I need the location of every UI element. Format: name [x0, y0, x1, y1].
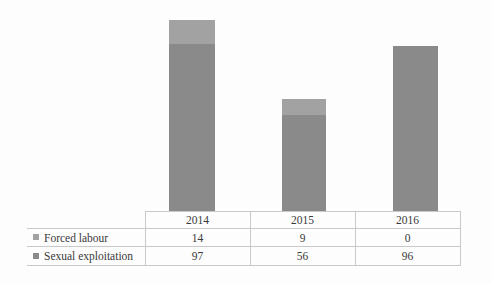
- segment-sexual-exploitation-2016[interactable]: [393, 46, 438, 212]
- column-2015[interactable]: [282, 99, 326, 212]
- table-corner-cell: [27, 212, 145, 229]
- table-row: Forced labour 14 9 0: [27, 229, 460, 247]
- chart-data-table: 2014 2015 2016 Forced labour 14 9 0 Sexu…: [27, 211, 461, 266]
- legend-label-sexual-exploitation: Sexual exploitation: [44, 251, 133, 263]
- plot-area: [0, 0, 492, 212]
- column-2014[interactable]: [169, 20, 215, 212]
- legend-item-sexual-exploitation[interactable]: Sexual exploitation: [27, 247, 145, 265]
- legend-swatch-icon: [33, 234, 39, 240]
- table-row: Sexual exploitation 97 56 96: [27, 247, 460, 265]
- cell-sexual-exploitation-2014: 97: [145, 247, 250, 265]
- cell-sexual-exploitation-2015: 56: [250, 247, 355, 265]
- cell-sexual-exploitation-2016: 96: [355, 247, 460, 265]
- column-2016[interactable]: [393, 46, 438, 212]
- segment-sexual-exploitation-2015[interactable]: [282, 115, 326, 212]
- legend-label-forced-labour: Forced labour: [44, 232, 108, 244]
- cell-forced-labour-2016: 0: [355, 229, 460, 247]
- cell-forced-labour-2014: 14: [145, 229, 250, 247]
- cell-forced-labour-2015: 9: [250, 229, 355, 247]
- table-header-row: 2014 2015 2016: [27, 212, 460, 229]
- column-header-2015: 2015: [250, 212, 355, 229]
- segment-forced-labour-2014[interactable]: [169, 20, 215, 44]
- segment-forced-labour-2015[interactable]: [282, 99, 326, 115]
- legend-item-forced-labour[interactable]: Forced labour: [27, 229, 145, 247]
- column-header-2016: 2016: [355, 212, 460, 229]
- chart-screenshot: 2014 2015 2016 Forced labour 14 9 0 Sexu…: [0, 0, 492, 284]
- column-header-2014: 2014: [145, 212, 250, 229]
- legend-swatch-icon: [33, 253, 39, 259]
- segment-sexual-exploitation-2014[interactable]: [169, 44, 215, 212]
